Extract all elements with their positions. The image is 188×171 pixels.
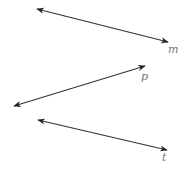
lines-diagram: mpt [0,0,188,171]
line-label-p: p [141,70,148,83]
line-label-t: t [162,151,167,164]
line-t: t [38,120,167,164]
double-arrow-line-p [14,66,145,106]
line-label-m: m [168,43,178,56]
double-arrow-line-m [37,9,168,42]
line-m: m [37,9,178,56]
line-p: p [14,66,148,106]
double-arrow-line-t [38,120,167,150]
